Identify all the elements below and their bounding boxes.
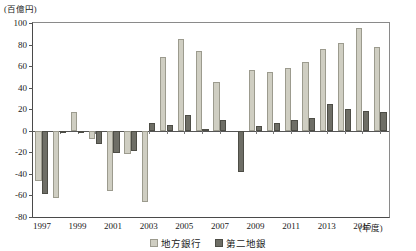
- legend-label-second-tier-banks: 第二地銀: [226, 236, 266, 250]
- bar-2016-regional-banks: [374, 47, 380, 131]
- bar-2005-second-tier-banks: [185, 115, 191, 131]
- y-axis-tick: [29, 88, 33, 89]
- y-axis-tick-label: 100: [14, 18, 28, 28]
- x-axis-tick-label: 2003: [140, 221, 158, 231]
- x-axis-tick: [256, 131, 257, 134]
- y-axis-tick: [29, 195, 33, 196]
- bar-2012-regional-banks: [302, 62, 308, 131]
- bar-1997-second-tier-banks: [42, 131, 48, 195]
- bar-2004-second-tier-banks: [167, 125, 173, 130]
- bar-2011-regional-banks: [285, 68, 291, 131]
- chart-legend: 地方銀行 第二地銀: [0, 236, 416, 250]
- bar-1999-regional-banks: [71, 112, 77, 130]
- x-axis-tick: [184, 131, 185, 134]
- bar-2000-regional-banks: [89, 131, 95, 140]
- x-axis-tick-label: 2007: [211, 221, 229, 231]
- y-axis-tick: [29, 45, 33, 46]
- bar-2005-regional-banks: [178, 39, 184, 131]
- y-axis-tick: [29, 23, 33, 24]
- bar-2009-regional-banks: [249, 70, 255, 130]
- x-axis-tick: [380, 131, 381, 134]
- x-axis-tick: [220, 131, 221, 134]
- x-axis-tick-label: 1997: [33, 221, 51, 231]
- x-axis-tick-label: 2001: [104, 221, 122, 231]
- x-axis-tick-label: 2011: [282, 221, 300, 231]
- legend-swatch-second-tier-banks: [215, 239, 223, 247]
- x-axis-tick-label: 2009: [247, 221, 265, 231]
- y-axis-tick-label: 80: [18, 40, 27, 50]
- bar-2000-second-tier-banks: [96, 131, 102, 144]
- legend-item-regional-banks: 地方銀行: [150, 236, 201, 250]
- bar-1998-second-tier-banks: [60, 131, 66, 133]
- y-axis-tick-label: 40: [18, 83, 27, 93]
- y-axis-tick-label: -40: [15, 169, 27, 179]
- y-axis-tick: [29, 109, 33, 110]
- bar-2004-regional-banks: [160, 57, 166, 130]
- bar-2010-second-tier-banks: [274, 123, 280, 131]
- legend-swatch-regional-banks: [150, 239, 158, 247]
- legend-item-second-tier-banks: 第二地銀: [215, 236, 266, 250]
- y-axis-tick-label: 0: [23, 126, 28, 136]
- x-axis-tick: [362, 131, 363, 134]
- bar-2013-regional-banks: [320, 49, 326, 131]
- bar-2006-second-tier-banks: [202, 129, 208, 131]
- x-axis-tick: [309, 131, 310, 134]
- bar-2009-second-tier-banks: [256, 126, 262, 130]
- y-axis-unit-label: (百億円): [4, 2, 37, 14]
- y-axis-tick: [29, 152, 33, 153]
- bar-2003-regional-banks: [142, 131, 148, 202]
- y-axis-tick-label: 20: [18, 104, 27, 114]
- bar-2012-second-tier-banks: [309, 118, 315, 131]
- bar-2015-regional-banks: [356, 28, 362, 130]
- bar-2014-second-tier-banks: [345, 109, 351, 131]
- bar-2002-second-tier-banks: [131, 131, 137, 151]
- x-axis-tick: [345, 131, 346, 134]
- bar-2003-second-tier-banks: [149, 123, 155, 131]
- bar-2013-second-tier-banks: [327, 104, 333, 131]
- y-axis-tick: [29, 66, 33, 67]
- bar-1999-second-tier-banks: [78, 131, 84, 133]
- bar-2014-regional-banks: [338, 43, 344, 130]
- plot-area: 100806040200-20-40-60-801997199920012003…: [32, 22, 390, 218]
- bar-1998-regional-banks: [53, 131, 59, 198]
- x-axis-tick: [167, 131, 168, 134]
- y-axis-tick-label: -60: [15, 190, 27, 200]
- bar-2008-second-tier-banks: [238, 131, 244, 172]
- y-axis-tick-label: -20: [15, 147, 27, 157]
- y-axis-tick-label: -80: [15, 212, 27, 222]
- x-axis-tick: [327, 131, 328, 134]
- legend-label-regional-banks: 地方銀行: [161, 236, 201, 250]
- x-axis-tick-label: 1999: [69, 221, 87, 231]
- y-axis-tick-label: 60: [18, 61, 27, 71]
- bar-2015-second-tier-banks: [363, 111, 369, 130]
- bar-2011-second-tier-banks: [291, 120, 297, 131]
- bar-2010-regional-banks: [267, 72, 273, 131]
- bar-2006-regional-banks: [196, 51, 202, 131]
- bar-2001-regional-banks: [107, 131, 113, 191]
- x-axis-unit-label: (年度): [359, 221, 383, 233]
- bar-1997-regional-banks: [35, 131, 41, 182]
- bar-2007-regional-banks: [213, 82, 219, 131]
- bar-2016-second-tier-banks: [380, 112, 386, 130]
- x-axis-tick: [273, 131, 274, 134]
- zero-baseline: [33, 131, 389, 132]
- x-axis-tick-label: 2005: [175, 221, 193, 231]
- x-axis-tick: [291, 131, 292, 134]
- y-axis-tick: [29, 174, 33, 175]
- bar-chart: (百億円) 100806040200-20-40-60-801997199920…: [0, 0, 416, 251]
- bar-2001-second-tier-banks: [113, 131, 119, 154]
- y-axis-tick: [29, 217, 33, 218]
- x-axis-tick-label: 2013: [318, 221, 336, 231]
- x-axis-tick: [149, 131, 150, 134]
- x-axis-tick: [202, 131, 203, 134]
- bar-2002-regional-banks: [124, 131, 130, 155]
- bar-2007-second-tier-banks: [220, 120, 226, 131]
